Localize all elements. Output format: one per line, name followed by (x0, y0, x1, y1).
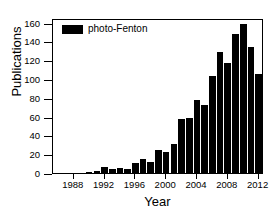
y-axis-tick (44, 136, 52, 137)
x-axis-tick-label: 2012 (238, 180, 278, 190)
bar (248, 47, 255, 173)
bar (232, 34, 239, 173)
bar (140, 159, 147, 173)
bar-series (53, 20, 262, 173)
y-axis-tick-label: 0 (0, 169, 40, 179)
bar (101, 167, 108, 173)
legend: photo-Fenton (62, 24, 148, 34)
bar (224, 63, 231, 173)
y-axis-tick (44, 118, 52, 119)
bar (117, 168, 124, 173)
bar (217, 52, 224, 173)
bar (147, 162, 154, 173)
y-axis-tick-label: 40 (0, 131, 40, 141)
y-axis-tick (44, 155, 52, 156)
y-axis-tick (44, 174, 52, 175)
bar (194, 100, 201, 173)
bar (94, 171, 101, 173)
bar (209, 76, 216, 173)
bar (163, 152, 170, 173)
bar (86, 172, 93, 173)
bar (109, 169, 116, 173)
bar (186, 118, 193, 173)
y-axis-tick-label: 20 (0, 150, 40, 160)
publications-bar-chart: Publications 020406080100120140160 19881… (0, 0, 280, 215)
bar (178, 119, 185, 173)
y-axis-tick-label: 80 (0, 94, 40, 104)
legend-label: photo-Fenton (88, 24, 148, 34)
y-axis-tick (44, 61, 52, 62)
bar (171, 144, 178, 173)
y-axis-tick (44, 80, 52, 81)
bar (240, 24, 247, 173)
y-axis-tick-label: 140 (0, 37, 40, 47)
y-axis-tick (44, 99, 52, 100)
y-axis-tick-label: 100 (0, 75, 40, 85)
y-axis-tick (44, 24, 52, 25)
y-axis-tick (44, 42, 52, 43)
bar (201, 105, 208, 173)
y-axis-tick-label: 120 (0, 56, 40, 66)
bar (155, 150, 162, 173)
bar (255, 74, 262, 173)
plot-area (52, 19, 263, 174)
bar (124, 169, 131, 173)
y-axis-tick-label: 60 (0, 113, 40, 123)
y-axis-tick-label: 160 (0, 19, 40, 29)
legend-swatch-icon (62, 25, 83, 34)
x-axis-title: Year (52, 194, 263, 209)
bar (132, 163, 139, 173)
